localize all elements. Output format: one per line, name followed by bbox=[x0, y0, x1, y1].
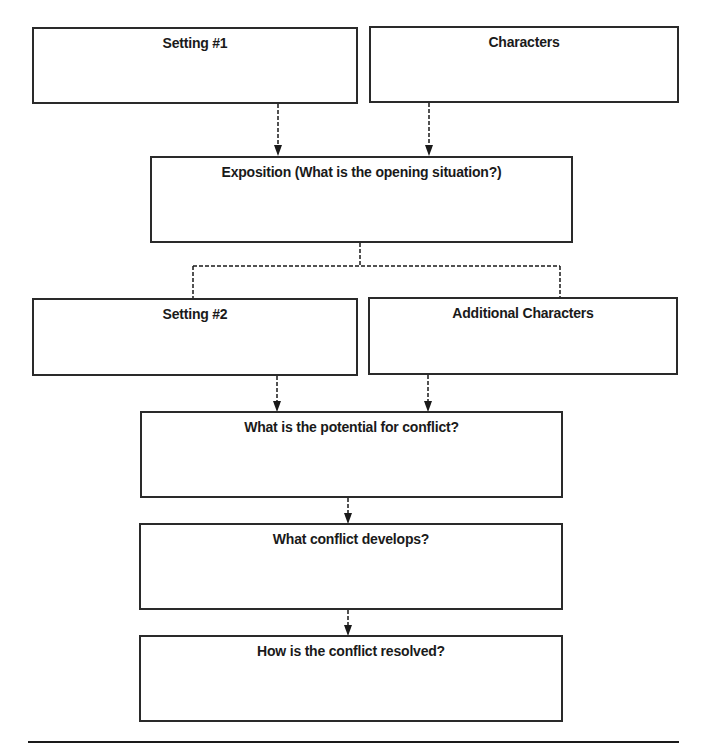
arrowhead-icon bbox=[274, 145, 282, 156]
conflict-resolved-box: How is the conflict resolved? bbox=[139, 635, 563, 722]
setting-1-input[interactable] bbox=[40, 57, 350, 96]
characters-input[interactable] bbox=[377, 56, 671, 95]
characters-title: Characters bbox=[371, 34, 677, 50]
potential-conflict-box: What is the potential for conflict? bbox=[140, 411, 563, 498]
conflict-resolved-input[interactable] bbox=[147, 665, 555, 714]
setting-2-title: Setting #2 bbox=[34, 306, 356, 322]
conflict-resolved-title: How is the conflict resolved? bbox=[141, 643, 561, 659]
arrowhead-icon bbox=[425, 145, 433, 156]
characters-box: Characters bbox=[369, 26, 679, 103]
additional-characters-title: Additional Characters bbox=[370, 305, 676, 321]
conflict-develops-box: What conflict develops? bbox=[139, 523, 563, 610]
exposition-title: Exposition (What is the opening situatio… bbox=[152, 164, 571, 180]
setting-2-input[interactable] bbox=[40, 328, 350, 368]
exposition-box: Exposition (What is the opening situatio… bbox=[150, 156, 573, 243]
setting-1-box: Setting #1 bbox=[32, 27, 358, 104]
additional-characters-box: Additional Characters bbox=[368, 297, 678, 375]
conflict-develops-title: What conflict develops? bbox=[141, 531, 561, 547]
additional-characters-input[interactable] bbox=[376, 327, 670, 367]
setting-2-box: Setting #2 bbox=[32, 298, 358, 376]
exposition-input[interactable] bbox=[158, 186, 565, 235]
potential-conflict-input[interactable] bbox=[148, 441, 555, 490]
potential-conflict-title: What is the potential for conflict? bbox=[142, 419, 561, 435]
setting-1-title: Setting #1 bbox=[34, 35, 356, 51]
bottom-divider bbox=[28, 741, 679, 743]
conflict-develops-input[interactable] bbox=[147, 553, 555, 602]
